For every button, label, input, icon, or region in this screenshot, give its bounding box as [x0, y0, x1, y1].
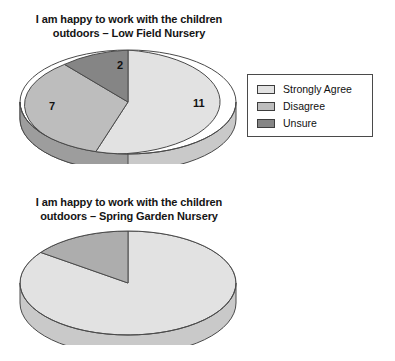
legend-swatch-strongly-agree: [257, 85, 275, 94]
legend-label-strongly-agree: Strongly Agree: [283, 84, 352, 95]
chart-panel-low-field: I am happy to work with the children out…: [0, 0, 395, 180]
data-label-strongly-agree: 11: [193, 97, 205, 109]
chart-title-spring-garden: I am happy to work with the children out…: [18, 195, 240, 223]
legend-label-disagree: Disagree: [283, 101, 325, 112]
legend-swatch-unsure: [257, 119, 275, 128]
legend-item-strongly-agree[interactable]: Strongly Agree: [257, 81, 364, 98]
legend-low-field: Strongly Agree Disagree Unsure: [247, 74, 373, 137]
legend-item-disagree[interactable]: Disagree: [257, 98, 364, 115]
data-label-disagree: 7: [49, 100, 55, 112]
pie-chart-spring-garden: [18, 225, 238, 345]
chart-title-low-field: I am happy to work with the children out…: [18, 12, 240, 40]
legend-label-unsure: Unsure: [283, 118, 317, 129]
pie-graphic-spring-garden: [18, 225, 238, 345]
legend-swatch-disagree: [257, 102, 275, 111]
legend-item-unsure[interactable]: Unsure: [257, 115, 364, 132]
chart-panel-spring-garden: I am happy to work with the children out…: [0, 181, 395, 361]
data-label-unsure: 2: [117, 59, 123, 71]
pie-slices-spring-garden: [20, 231, 236, 335]
